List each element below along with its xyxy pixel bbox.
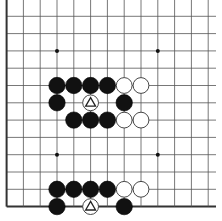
white-stone-icon bbox=[133, 78, 149, 94]
white-stone[interactable] bbox=[116, 78, 132, 94]
white-stone-icon bbox=[116, 112, 132, 128]
star-point-icon bbox=[156, 49, 160, 53]
white-stone-icon bbox=[133, 112, 149, 128]
black-stone-icon bbox=[99, 77, 115, 93]
white-stone[interactable] bbox=[116, 181, 132, 197]
black-stone[interactable] bbox=[116, 198, 132, 214]
black-stone[interactable] bbox=[116, 95, 132, 111]
board-grid bbox=[7, 0, 216, 207]
black-stone[interactable] bbox=[49, 95, 65, 111]
star-point-icon bbox=[55, 153, 59, 157]
black-stone-icon bbox=[116, 198, 132, 214]
black-stone-icon bbox=[66, 77, 82, 93]
white-stone-icon bbox=[116, 78, 132, 94]
black-stone-icon bbox=[49, 181, 65, 197]
white-stone[interactable] bbox=[133, 112, 149, 128]
black-stone[interactable] bbox=[49, 77, 65, 93]
white-stone-marked[interactable] bbox=[83, 199, 99, 215]
black-stone[interactable] bbox=[99, 77, 115, 93]
black-stone-icon bbox=[49, 95, 65, 111]
black-stone[interactable] bbox=[99, 112, 115, 128]
black-stone-icon bbox=[82, 77, 98, 93]
black-stone[interactable] bbox=[66, 181, 82, 197]
black-stone-icon bbox=[116, 95, 132, 111]
star-point-icon bbox=[55, 49, 59, 53]
stones-layer[interactable] bbox=[49, 77, 149, 215]
white-stone-icon bbox=[133, 181, 149, 197]
black-stone[interactable] bbox=[82, 181, 98, 197]
white-stone-icon bbox=[116, 181, 132, 197]
black-stone[interactable] bbox=[66, 77, 82, 93]
black-stone[interactable] bbox=[82, 77, 98, 93]
star-point-icon bbox=[156, 153, 160, 157]
black-stone-icon bbox=[66, 112, 82, 128]
black-stone-icon bbox=[99, 181, 115, 197]
black-stone[interactable] bbox=[82, 112, 98, 128]
white-stone-marked[interactable] bbox=[83, 95, 99, 111]
black-stone[interactable] bbox=[66, 112, 82, 128]
black-stone-icon bbox=[82, 181, 98, 197]
black-stone-icon bbox=[99, 112, 115, 128]
white-stone[interactable] bbox=[116, 112, 132, 128]
black-stone-icon bbox=[66, 181, 82, 197]
black-stone-icon bbox=[49, 77, 65, 93]
black-stone-icon bbox=[82, 112, 98, 128]
go-board[interactable] bbox=[0, 0, 222, 221]
white-stone[interactable] bbox=[133, 78, 149, 94]
black-stone-icon bbox=[49, 198, 65, 214]
black-stone[interactable] bbox=[99, 181, 115, 197]
black-stone[interactable] bbox=[49, 181, 65, 197]
white-stone[interactable] bbox=[133, 181, 149, 197]
black-stone[interactable] bbox=[49, 198, 65, 214]
